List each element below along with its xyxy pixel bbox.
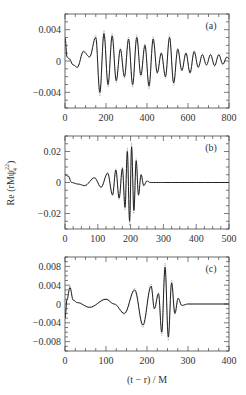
solid-waveform bbox=[65, 34, 229, 93]
y-tick-label: −0.008 bbox=[33, 336, 61, 347]
x-tick-label: 100 bbox=[90, 233, 105, 244]
x-tick-label: 200 bbox=[123, 233, 138, 244]
x-tick-label: 800 bbox=[222, 112, 237, 123]
y-tick-label: 0 bbox=[56, 56, 61, 67]
y-tick-label: 0.004 bbox=[39, 24, 62, 35]
panel-a: 02004006008000.0040−0.004(a) bbox=[33, 14, 237, 123]
panel-label: (a) bbox=[205, 20, 216, 32]
y-axis-title: Re (rMψ224) bbox=[4, 161, 18, 206]
y-tick-label: −0.004 bbox=[33, 317, 61, 328]
panel-label: (b) bbox=[205, 142, 217, 154]
y-tick-label: −0.004 bbox=[33, 87, 61, 98]
y-tick-label: 0.02 bbox=[44, 146, 62, 157]
dotted-waveform bbox=[65, 143, 229, 226]
x-tick-label: 200 bbox=[99, 112, 114, 123]
x-tick-label: 200 bbox=[140, 355, 155, 366]
x-tick-label: 300 bbox=[156, 233, 171, 244]
x-tick-label: 400 bbox=[140, 112, 155, 123]
figure: 02004006008000.0040−0.004(a)010020030040… bbox=[0, 0, 246, 395]
y-tick-label: 0.008 bbox=[39, 261, 62, 272]
x-tick-label: 500 bbox=[222, 233, 237, 244]
x-tick-label: 0 bbox=[63, 112, 68, 123]
x-tick-label: 400 bbox=[222, 355, 237, 366]
y-tick-label: 0.004 bbox=[39, 280, 62, 291]
x-tick-label: 600 bbox=[181, 112, 196, 123]
solid-waveform bbox=[65, 267, 229, 337]
x-tick-label: 300 bbox=[181, 355, 196, 366]
panel-c: 01002003004000.0080.0040−0.004−0.008(c) bbox=[33, 257, 237, 366]
y-tick-label: 0 bbox=[56, 177, 61, 188]
panel-b: 01002003004005000.020−0.02(b) bbox=[38, 136, 237, 244]
x-tick-label: 0 bbox=[63, 355, 68, 366]
panel-label: (c) bbox=[205, 263, 216, 275]
x-tick-label: 0 bbox=[63, 233, 68, 244]
dotted-waveform bbox=[65, 263, 229, 341]
x-tick-label: 400 bbox=[189, 233, 204, 244]
x-axis-title: (t − r) / M bbox=[127, 374, 167, 386]
y-tick-label: −0.02 bbox=[38, 208, 61, 219]
y-tick-label: 0 bbox=[56, 299, 61, 310]
x-tick-label: 100 bbox=[99, 355, 114, 366]
solid-waveform bbox=[65, 147, 229, 221]
